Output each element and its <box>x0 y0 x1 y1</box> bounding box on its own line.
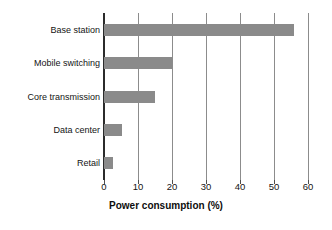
x-tick-label-10: 10 <box>123 181 153 193</box>
gridline-x-20 <box>172 13 173 180</box>
bar-row <box>104 124 122 136</box>
gridline-x-50 <box>274 13 275 180</box>
category-label: Retail <box>77 157 100 169</box>
bar-row <box>104 57 172 69</box>
category-label: Base station <box>50 24 100 36</box>
gridline-x-30 <box>206 13 207 180</box>
category-label: Mobile switching <box>34 57 100 69</box>
x-tick-label-40: 40 <box>225 181 255 193</box>
bar-chart: Power consumption (%) 0102030405060Base … <box>0 0 332 230</box>
x-tick-label-60: 60 <box>293 181 323 193</box>
x-tick-label-30: 30 <box>191 181 221 193</box>
gridline-x-40 <box>240 13 241 180</box>
bar <box>104 91 155 103</box>
plot-area <box>104 13 308 180</box>
x-tick-label-20: 20 <box>157 181 187 193</box>
gridline-x-60 <box>308 13 309 180</box>
bar <box>104 57 172 69</box>
bar <box>104 157 113 169</box>
x-tick-label-50: 50 <box>259 181 289 193</box>
bar-row <box>104 157 113 169</box>
x-axis-title: Power consumption (%) <box>0 200 332 211</box>
bar-row <box>104 91 155 103</box>
bar-row <box>104 24 294 36</box>
category-label: Data center <box>53 124 100 136</box>
bar <box>104 24 294 36</box>
x-tick-label-0: 0 <box>89 181 119 193</box>
bar <box>104 124 122 136</box>
category-label: Core transmission <box>27 91 100 103</box>
